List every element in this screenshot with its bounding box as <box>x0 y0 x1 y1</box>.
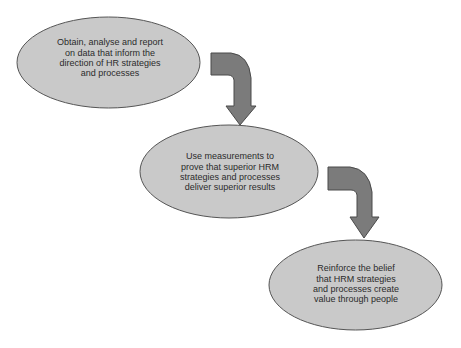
step-2-label: Use measurements to prove that superior … <box>160 144 300 200</box>
step-2-text: Use measurements to prove that superior … <box>180 151 280 193</box>
step-1-text: Obtain, analyse and report on data that … <box>57 37 163 79</box>
step-3-text: Reinforce the belief that HRM strategies… <box>313 263 399 305</box>
arrow-down-icon <box>328 167 379 238</box>
arrow-down-icon <box>211 53 256 125</box>
step-1-label: Obtain, analyse and report on data that … <box>40 30 180 86</box>
step-3-label: Reinforce the belief that HRM strategies… <box>289 256 423 312</box>
